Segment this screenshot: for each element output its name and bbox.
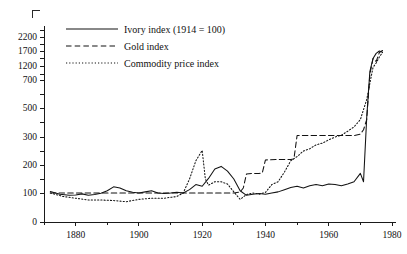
series-line-solid: [50, 51, 382, 195]
series-group: [50, 50, 382, 201]
y-tick-label: 700: [23, 75, 38, 85]
y-tick-label: 0: [32, 217, 37, 227]
legend-label-ivory: Ivory index (1914 = 100): [124, 24, 225, 36]
x-tick-label: 1900: [129, 230, 148, 240]
chart-plot-area: 0100200300500700120017002200188019001920…: [0, 0, 407, 254]
x-tick-label: 1980: [383, 230, 402, 240]
legend-group: Ivory index (1914 = 100)Gold indexCommod…: [66, 24, 225, 69]
x-tick-label: 1940: [256, 230, 275, 240]
x-tick-label: 1880: [66, 230, 85, 240]
x-tick-label: 1920: [193, 230, 212, 240]
y-tick-label: 2200: [18, 32, 37, 42]
x-tick-label: 1960: [319, 230, 338, 240]
series-line-dashed: [50, 50, 382, 193]
series-line-dotted: [50, 53, 382, 202]
chart-figure: 0100200300500700120017002200188019001920…: [0, 0, 407, 254]
y-tick-label: 300: [23, 132, 38, 142]
y-tick-label: 200: [23, 160, 38, 170]
y-tick-label: 500: [23, 103, 38, 113]
y-tick-label: 100: [23, 188, 38, 198]
legend-label-gold: Gold index: [124, 41, 169, 52]
y-tick-label: 1700: [18, 46, 37, 56]
y-tick-label: 1200: [18, 61, 37, 71]
legend-label-commodity: Commodity price index: [124, 58, 219, 69]
